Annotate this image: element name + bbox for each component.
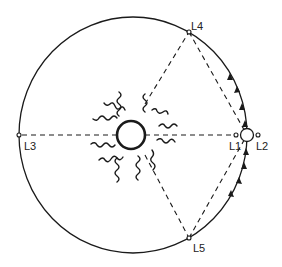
sun xyxy=(117,121,145,149)
label-l1: L1 xyxy=(229,140,241,152)
label-l2: L2 xyxy=(256,140,268,152)
l3-marker xyxy=(17,133,21,137)
arrow-icon xyxy=(241,162,247,169)
arrow-icon xyxy=(236,177,242,184)
lagrange-points-diagram: L1 L2 L3 L4 L5 xyxy=(0,0,282,267)
arrow-icon xyxy=(243,148,249,155)
label-l5: L5 xyxy=(193,242,205,254)
l2-marker xyxy=(256,133,260,137)
sun-l5-line xyxy=(145,155,189,238)
arrow-icon xyxy=(234,86,240,93)
l1-marker xyxy=(234,133,238,137)
earth xyxy=(241,129,254,142)
l4-earth-line xyxy=(189,32,247,135)
label-l4: L4 xyxy=(191,20,203,32)
sun-l4-line xyxy=(145,32,189,104)
l5-marker xyxy=(187,236,191,240)
label-l3: L3 xyxy=(24,140,36,152)
